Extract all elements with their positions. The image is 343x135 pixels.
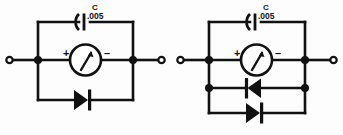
- right-terminal-in[interactable]: [177, 57, 183, 63]
- right-junction-out-meter: [301, 56, 309, 64]
- schematic-canvas: C .005 + –: [0, 0, 343, 135]
- right-junction-out-diode: [301, 84, 309, 92]
- left-diode-1: [74, 90, 90, 111]
- right-junction-in-diode: [205, 84, 213, 92]
- right-diode-2: [246, 103, 262, 124]
- circuit-right: C .005 + –: [177, 3, 336, 124]
- left-terminal-in[interactable]: [6, 57, 12, 63]
- left-meter: [70, 45, 101, 76]
- right-meter-plus-label: +: [234, 47, 240, 59]
- right-terminal-out[interactable]: [330, 57, 336, 63]
- right-diode-1-anode-triangle: [248, 79, 262, 99]
- right-meter-minus-label: –: [275, 47, 281, 59]
- left-terminal-out[interactable]: [158, 57, 164, 63]
- left-junction-in: [34, 56, 42, 64]
- circuit-left: C .005 + –: [6, 3, 164, 111]
- left-capacitor-value: .005: [87, 11, 104, 21]
- left-meter-minus-label: –: [104, 47, 110, 59]
- schematic-figure: C .005 + –: [0, 0, 343, 135]
- left-diode-1-anode-triangle: [74, 90, 88, 110]
- right-diode-1: [247, 78, 262, 99]
- right-capacitor-value: .005: [258, 11, 275, 21]
- right-meter: [241, 45, 272, 76]
- left-junction-out: [129, 56, 137, 64]
- right-diode-2-anode-triangle: [246, 103, 260, 123]
- right-junction-in-meter: [205, 56, 213, 64]
- left-meter-plus-label: +: [63, 47, 69, 59]
